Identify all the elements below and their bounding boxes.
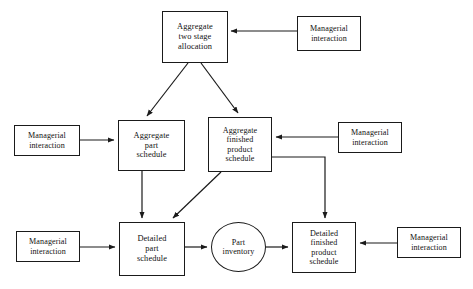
aggregate-part-schedule-label: Aggregate part schedule (132, 131, 172, 160)
edge-aggregate-finished-product-schedule-to-detailed-finished-product-schedule (272, 157, 325, 218)
edge-aggregate-two-stage-allocation-to-aggregate-part-schedule (147, 63, 188, 116)
managerial-interaction-right-mid-label: Managerial interaction (349, 128, 391, 147)
managerial-interaction-top-label: Managerial interaction (308, 24, 350, 43)
edge-aggregate-finished-product-schedule-to-detailed-part-schedule (173, 172, 221, 218)
managerial-interaction-right-mid-node[interactable]: Managerial interaction (338, 122, 402, 153)
aggregate-part-schedule-node[interactable]: Aggregate part schedule (118, 120, 185, 171)
aggregate-finished-product-schedule-node[interactable]: Aggregate finished product schedule (208, 117, 272, 172)
flow-diagram: Aggregate two stage allocation Manageria… (0, 0, 473, 289)
aggregate-finished-product-schedule-label: Aggregate finished product schedule (221, 126, 260, 164)
aggregate-two-stage-allocation-label: Aggregate two stage allocation (175, 22, 215, 51)
part-inventory-label: Part inventory (221, 238, 257, 257)
managerial-interaction-left-mid-node[interactable]: Managerial interaction (14, 125, 80, 156)
managerial-interaction-right-bottom-label: Managerial interaction (408, 233, 450, 252)
aggregate-two-stage-allocation-node[interactable]: Aggregate two stage allocation (162, 11, 228, 63)
managerial-interaction-right-bottom-node[interactable]: Managerial interaction (397, 227, 461, 258)
detailed-finished-product-schedule-node[interactable]: Detailed finished product schedule (292, 222, 356, 273)
detailed-part-schedule-label: Detailed part schedule (135, 234, 169, 263)
detailed-part-schedule-node[interactable]: Detailed part schedule (119, 222, 185, 276)
managerial-interaction-left-bottom-label: Managerial interaction (27, 237, 69, 256)
managerial-interaction-left-mid-label: Managerial interaction (26, 131, 68, 150)
managerial-interaction-top-node[interactable]: Managerial interaction (297, 16, 361, 51)
detailed-finished-product-schedule-label: Detailed finished product schedule (307, 229, 340, 267)
part-inventory-node[interactable]: Part inventory (211, 222, 266, 272)
managerial-interaction-left-bottom-node[interactable]: Managerial interaction (16, 231, 80, 262)
edge-aggregate-two-stage-allocation-to-aggregate-finished-product-schedule (201, 63, 238, 113)
